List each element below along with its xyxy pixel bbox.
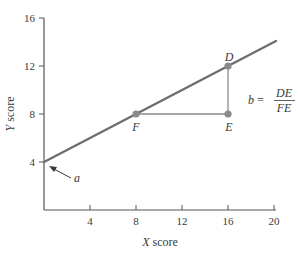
label-D: D	[224, 50, 234, 64]
y-tick-label: 8	[30, 108, 36, 120]
intercept-arrow-icon	[49, 166, 71, 178]
regression-chart: 16 12 8 4 4 8 12 16 20 X score Y score F…	[0, 0, 298, 256]
x-tick-label: 4	[87, 215, 93, 227]
x-tick-label: 12	[177, 215, 188, 227]
x-tick-label: 8	[133, 215, 139, 227]
slope-formula: b = DE FE	[248, 86, 295, 115]
x-tick-label: 20	[269, 215, 281, 227]
point-E	[224, 110, 231, 117]
y-ticks	[39, 18, 44, 162]
y-tick-label: 4	[30, 156, 36, 168]
y-axis-title: Y score	[3, 96, 17, 131]
y-tick-label: 12	[24, 60, 35, 72]
intercept-label-a: a	[74, 171, 80, 185]
formula-numerator: DE	[275, 86, 293, 100]
y-tick-label: 16	[24, 12, 36, 24]
point-F	[132, 110, 139, 117]
regression-line	[44, 41, 276, 162]
x-tick-label: 16	[223, 215, 235, 227]
x-axis-title: X score	[141, 235, 178, 249]
x-ticks	[90, 205, 274, 210]
chart-canvas: 16 12 8 4 4 8 12 16 20 X score Y score F…	[0, 0, 298, 256]
label-F: F	[131, 120, 140, 134]
label-E: E	[224, 120, 233, 134]
formula-lhs: b =	[248, 93, 264, 107]
formula-denominator: FE	[276, 101, 292, 115]
